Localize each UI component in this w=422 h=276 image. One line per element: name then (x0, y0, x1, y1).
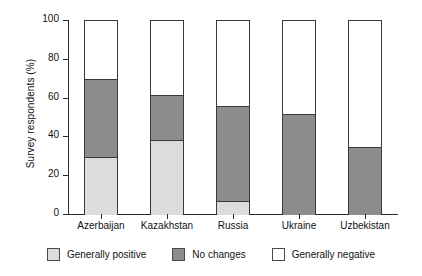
bar-segment-negative-russia[interactable] (217, 21, 249, 106)
legend-item-1[interactable]: No changes (172, 248, 245, 261)
y-tick-40: 40 (63, 136, 68, 137)
legend-item-0[interactable]: Generally positive (47, 248, 146, 261)
bar-segment-no-changes-russia[interactable] (217, 106, 249, 201)
stacked-bar-chart: Survey respondents (%) 100806040200 Azer… (0, 0, 422, 276)
y-tick-60: 60 (63, 98, 68, 99)
bar-stack-ukraine[interactable] (282, 20, 316, 214)
bar-segment-no-changes-kazakhstan[interactable] (151, 95, 183, 141)
y-tick-label-0: 0 (53, 207, 59, 218)
bar-segment-negative-ukraine[interactable] (283, 21, 315, 114)
legend-item-2[interactable]: Generally negative (272, 248, 375, 261)
y-tick-label-80: 80 (48, 52, 59, 63)
y-tick-label-60: 60 (48, 91, 59, 102)
bar-stack-kazakhstan[interactable] (150, 20, 184, 214)
legend-label-1: No changes (192, 249, 245, 260)
y-axis-line (68, 20, 69, 214)
x-axis-label-uzbekistan: Uzbekistan (320, 220, 410, 231)
legend-swatch-icon-2 (272, 248, 285, 261)
y-tick-0: 0 (63, 214, 68, 215)
bar-stack-uzbekistan[interactable] (348, 20, 382, 214)
legend-label-2: Generally negative (292, 249, 375, 260)
bar-segment-no-changes-uzbekistan[interactable] (349, 147, 381, 215)
bar-segment-positive-russia[interactable] (217, 201, 249, 215)
bar-segment-no-changes-azerbaijan[interactable] (85, 79, 117, 157)
legend-label-0: Generally positive (67, 249, 146, 260)
x-tick-azerbaijan (101, 214, 102, 219)
y-tick-label-40: 40 (48, 129, 59, 140)
y-tick-100: 100 (63, 20, 68, 21)
y-tick-20: 20 (63, 175, 68, 176)
y-tick-label-100: 100 (42, 13, 59, 24)
chart-legend: Generally positiveNo changesGenerally ne… (0, 248, 422, 261)
plot-area: 100806040200 AzerbaijanKazakhstanRussiaU… (68, 20, 398, 214)
bar-segment-no-changes-ukraine[interactable] (283, 114, 315, 215)
legend-swatch-icon-1 (172, 248, 185, 261)
legend-swatch-icon-0 (47, 248, 60, 261)
bar-segment-negative-uzbekistan[interactable] (349, 21, 381, 147)
bar-segment-positive-kazakhstan[interactable] (151, 140, 183, 215)
x-tick-kazakhstan (167, 214, 168, 219)
bar-segment-negative-kazakhstan[interactable] (151, 21, 183, 95)
bar-segment-negative-azerbaijan[interactable] (85, 21, 117, 79)
bar-stack-azerbaijan[interactable] (84, 20, 118, 214)
y-axis-title: Survey respondents (%) (25, 24, 36, 204)
bar-segment-positive-azerbaijan[interactable] (85, 157, 117, 215)
x-tick-ukraine (299, 214, 300, 219)
y-tick-80: 80 (63, 59, 68, 60)
bar-stack-russia[interactable] (216, 20, 250, 214)
x-tick-russia (233, 214, 234, 219)
y-tick-label-20: 20 (48, 168, 59, 179)
x-tick-uzbekistan (365, 214, 366, 219)
